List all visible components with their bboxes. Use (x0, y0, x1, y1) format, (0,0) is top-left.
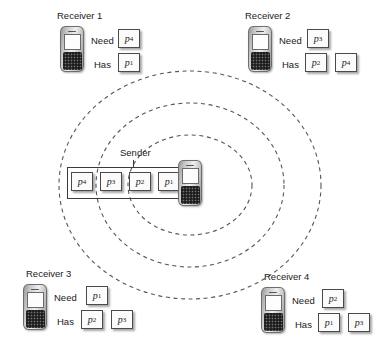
phone-screen (252, 34, 269, 50)
receiver-2-need-label: Need (279, 36, 302, 46)
receiver-1-need-label: Need (91, 36, 114, 46)
receiver-3-smartphone-icon (23, 284, 47, 330)
diagram-canvas: Receiver 1 Need p4 Has p1 Receiver 2 Nee… (0, 0, 376, 339)
phone-speaker (186, 165, 194, 167)
receiver-1-has-label: Has (94, 60, 111, 70)
sender-queue-packet-1: p3 (100, 172, 122, 191)
phone-speaker (269, 292, 277, 294)
receiver-4-has-packet-1: p3 (348, 313, 370, 332)
phone-screen (27, 292, 44, 308)
phone-keypad (264, 313, 283, 331)
phone-keypad (181, 186, 200, 204)
receiver-4-need-packet-0: p2 (322, 289, 344, 308)
phone-keypad (63, 52, 82, 70)
receiver-2-title: Receiver 2 (245, 11, 290, 21)
phone-speaker (68, 31, 76, 33)
phone-speaker (256, 31, 264, 33)
receiver-3-title: Receiver 3 (26, 269, 71, 279)
phone-screen (182, 168, 199, 184)
receiver-4-title: Receiver 4 (264, 272, 309, 282)
receiver-3-has-packet-1: p3 (111, 310, 133, 329)
phone-keypad (26, 310, 45, 328)
sender-label: Sender (120, 148, 151, 158)
phone-speaker (31, 289, 39, 291)
receiver-3-has-packet-0: p2 (81, 310, 103, 329)
receiver-2-smartphone-icon (248, 26, 272, 72)
receiver-4-need-label: Need (292, 296, 315, 306)
receiver-2-has-label: Has (282, 60, 299, 70)
sender-queue-packet-0: p4 (71, 172, 93, 191)
receiver-1-need-packet-0: p4 (118, 29, 140, 48)
receiver-2-need-packet-0: p3 (307, 29, 329, 48)
phone-keypad (251, 52, 270, 70)
receiver-2-has-packet-0: p2 (305, 53, 327, 72)
receiver-4-smartphone-icon (261, 287, 285, 333)
receiver-1-smartphone-icon (60, 26, 84, 72)
sender-smartphone-icon (178, 160, 202, 206)
receiver-4-has-label: Has (295, 320, 312, 330)
receiver-3-need-label: Need (54, 293, 77, 303)
phone-screen (64, 34, 81, 50)
receiver-1-title: Receiver 1 (57, 11, 102, 21)
receiver-2-has-packet-1: p4 (335, 53, 357, 72)
receiver-3-has-label: Has (57, 317, 74, 327)
phone-screen (265, 295, 282, 311)
receiver-1-has-packet-0: p1 (118, 53, 140, 72)
sender-queue-packet-2: p2 (129, 172, 151, 191)
receiver-3-need-packet-0: p1 (86, 286, 108, 305)
receiver-4-has-packet-0: p1 (318, 313, 340, 332)
sender-leader-line (133, 160, 134, 167)
sender-queue-packet-3: p1 (158, 172, 180, 191)
